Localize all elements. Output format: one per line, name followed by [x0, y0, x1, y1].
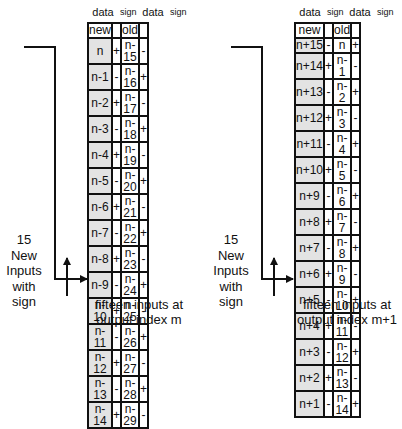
old-label: old: [333, 23, 351, 38]
new-label: new: [295, 23, 324, 38]
side-label-line: with: [211, 279, 251, 295]
new-sign-cell: -: [112, 220, 121, 246]
new-data-cell: n+11: [295, 131, 324, 157]
side-label-line: New: [4, 248, 44, 264]
table-row: n-2+n-17-: [88, 90, 148, 116]
new-sign-cell: -: [112, 272, 121, 298]
old-data-cell: n-21: [121, 194, 139, 220]
new-data-cell: n-9: [88, 272, 112, 298]
old-data-cell: n-23: [121, 246, 139, 272]
table-row: n-4+n-19-: [88, 142, 148, 168]
old-data-cell: n-28: [121, 376, 139, 402]
side-label-line: 15: [211, 232, 251, 248]
table-row: n-13-n-28+: [88, 376, 148, 402]
table-row: n-6+n-21-: [88, 194, 148, 220]
old-sign-cell: +: [351, 183, 360, 209]
new-data-cell: n+10: [295, 157, 324, 183]
old-sign-cell: -: [351, 53, 360, 79]
new-sign-cell: -: [112, 64, 121, 90]
old-data-cell: n-20: [121, 168, 139, 194]
column-header-sign: sign: [120, 5, 136, 19]
side-label-line: Inputs: [211, 263, 251, 279]
side-label-line: sign: [211, 294, 251, 310]
new-data-cell: n+14: [295, 53, 324, 79]
table-row: n+3-n-12+: [295, 339, 360, 365]
old-sign-cell: +: [139, 376, 148, 402]
table-row: n+7-n-8+: [295, 235, 360, 261]
caption-line: output index m+1: [291, 312, 402, 327]
new-data-cell: n-11: [88, 324, 112, 350]
new-data-cell: n-13: [88, 376, 112, 402]
new-data-cell: n+6: [295, 261, 324, 287]
column-header-data: data: [136, 5, 170, 19]
table-row: n+6+n-9-: [295, 261, 360, 287]
new-sign-cell: -: [324, 339, 333, 365]
old-data-cell: n-19: [121, 142, 139, 168]
new-data-cell: n+3: [295, 339, 324, 365]
old-data-cell: n-1: [333, 53, 351, 79]
new-data-cell: n+9: [295, 183, 324, 209]
old-data-cell: n-24: [121, 272, 139, 298]
old-data-cell: n-7: [333, 209, 351, 235]
column-header-data: data: [86, 5, 120, 19]
new-data-cell: n-3: [88, 116, 112, 142]
old-data-cell: n-14: [333, 391, 351, 417]
table-row: n+12+n-3-: [295, 105, 360, 131]
new-sign-cell: -: [324, 183, 333, 209]
right-input-table: newoldn+15-n+n+14+n-1-n+13-n-2+n+12+n-3-…: [294, 22, 361, 418]
old-sign-cell: +: [139, 220, 148, 246]
old-sign-cell: +: [139, 324, 148, 350]
column-header-sign: sign: [377, 5, 393, 19]
left-input-table: newoldn+n-15-n-1-n-16+n-2+n-17-n-3-n-18+…: [87, 22, 149, 429]
column-header-sign: sign: [170, 5, 186, 19]
new-data-cell: n-5: [88, 168, 112, 194]
side-label-line: sign: [4, 294, 44, 310]
table-row: n+n-15-: [88, 38, 148, 64]
old-data-cell: n-9: [333, 261, 351, 287]
new-data-cell: n-14: [88, 402, 112, 428]
new-data-cell: n+1: [295, 391, 324, 417]
new-sign-cell: +: [324, 105, 333, 131]
old-sign-cell: +: [139, 64, 148, 90]
old-sign-cell: -: [139, 194, 148, 220]
right-caption: fifteen inputs at output index m+1: [291, 297, 402, 327]
right-side-label: 15 New Inputs with sign: [211, 232, 251, 310]
old-sign-cell: +: [351, 131, 360, 157]
old-sign-cell: -: [139, 350, 148, 376]
old-data-cell: n-17: [121, 90, 139, 116]
table-row: n+8+n-7-: [295, 209, 360, 235]
table-row: n-9-n-24+: [88, 272, 148, 298]
new-sign-cell: +: [112, 350, 121, 376]
old-sign-cell: +: [351, 38, 360, 53]
old-data-cell: n-27: [121, 350, 139, 376]
table-row: n-12+n-27-: [88, 350, 148, 376]
old-sign-cell: -: [351, 157, 360, 183]
caption-line: fifteen inputs at: [291, 297, 402, 312]
left-caption: fifteen inputs at output index m: [84, 297, 194, 327]
new-sign-cell: +: [112, 246, 121, 272]
old-data-cell: n-26: [121, 324, 139, 350]
table-row: n+15-n+: [295, 38, 360, 53]
new-sign-cell: +: [324, 365, 333, 391]
old-label: old: [121, 23, 139, 38]
new-data-cell: n+8: [295, 209, 324, 235]
old-data-cell: n-12: [333, 339, 351, 365]
old-sign-cell: +: [351, 79, 360, 105]
side-label-line: New: [211, 248, 251, 264]
new-sign-cell: +: [324, 209, 333, 235]
new-sign-cell: -: [324, 391, 333, 417]
left-side-label: 15 New Inputs with sign: [4, 232, 44, 310]
blank-cell: [112, 23, 121, 38]
table-row: n+9-n-6+: [295, 183, 360, 209]
new-sign-cell: -: [324, 79, 333, 105]
column-header-data: data: [293, 5, 327, 19]
new-sign-cell: +: [324, 53, 333, 79]
old-data-cell: n-2: [333, 79, 351, 105]
side-label-line: with: [4, 279, 44, 295]
old-sign-cell: -: [139, 142, 148, 168]
new-sign-cell: -: [324, 131, 333, 157]
new-label: new: [88, 23, 112, 38]
old-sign-cell: +: [139, 272, 148, 298]
new-data-cell: n+15: [295, 38, 324, 53]
old-data-cell: n-13: [333, 365, 351, 391]
